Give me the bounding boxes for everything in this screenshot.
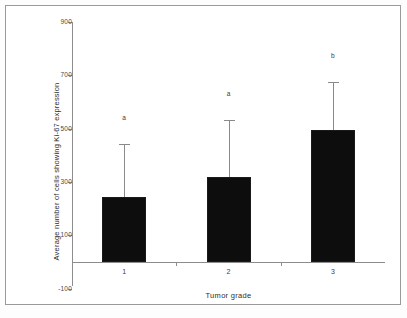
x-tick-label: 3 xyxy=(318,268,348,275)
bar xyxy=(207,177,251,262)
error-bar-cap xyxy=(328,82,339,83)
y-tick-label: 900 xyxy=(46,18,72,25)
bar xyxy=(102,197,146,262)
x-tick-mark xyxy=(281,262,282,266)
bar xyxy=(311,130,355,262)
x-tick-label: 2 xyxy=(214,268,244,275)
significance-label: a xyxy=(219,90,239,97)
x-tick-mark xyxy=(176,262,177,266)
error-bar-stem xyxy=(124,144,125,197)
y-axis-line xyxy=(72,22,73,286)
significance-label: a xyxy=(114,114,134,121)
y-axis-title: Average number of cells showing Ki-67 ex… xyxy=(52,38,61,306)
chart-plot-area: 900700500300100-100 123 aab Tumor grade … xyxy=(0,0,407,318)
significance-label: b xyxy=(323,52,343,59)
error-bar-stem xyxy=(229,120,230,177)
x-axis-line xyxy=(72,262,385,263)
error-bar-stem xyxy=(333,82,334,130)
x-tick-label: 1 xyxy=(109,268,139,275)
error-bar-cap xyxy=(224,120,235,121)
error-bar-cap xyxy=(119,144,130,145)
x-axis-title: Tumor grade xyxy=(72,291,385,300)
figure-page: 900700500300100-100 123 aab Tumor grade … xyxy=(0,0,407,318)
y-axis-title-container: Average number of cells showing Ki-67 ex… xyxy=(28,22,42,286)
